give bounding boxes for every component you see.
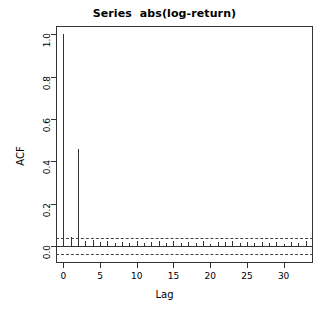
confidence-band-lower <box>56 254 313 255</box>
acf-spike <box>269 243 270 246</box>
x-axis-tick-label: 5 <box>80 271 120 281</box>
x-axis-tick-label: 15 <box>153 271 193 281</box>
acf-spike <box>254 243 255 246</box>
acf-spike <box>284 244 285 247</box>
acf-spike <box>63 34 64 246</box>
acf-spike <box>218 242 219 246</box>
acf-spike <box>262 242 263 246</box>
x-axis-tick-label: 0 <box>43 271 83 281</box>
y-axis-tick-label: 1.0 <box>42 33 52 47</box>
acf-spike <box>247 242 248 246</box>
x-axis-tick-label: 25 <box>227 271 267 281</box>
acf-spike <box>159 241 160 246</box>
y-axis-tick-label: 0.8 <box>42 76 52 90</box>
x-axis-title: Lag <box>0 289 329 300</box>
x-axis-tick-label: 10 <box>117 271 157 281</box>
y-axis-tick-label: 0.0 <box>42 245 52 259</box>
plot-area <box>56 26 313 263</box>
zero-line <box>56 246 313 247</box>
x-axis-tick <box>284 263 285 268</box>
acf-spike <box>115 243 116 246</box>
y-axis-tick-label: 0.2 <box>42 203 52 217</box>
acf-spike <box>122 242 123 246</box>
page-title: Series abs(log-return) <box>0 7 329 20</box>
acf-spike <box>151 242 152 246</box>
x-axis-tick <box>247 263 248 268</box>
x-axis-tick <box>63 263 64 268</box>
acf-spike <box>93 240 94 246</box>
x-axis-tick <box>137 263 138 268</box>
acf-spike <box>225 242 226 246</box>
acf-spike <box>276 242 277 246</box>
x-axis-tick-label: 20 <box>190 271 230 281</box>
acf-spike <box>306 241 307 246</box>
y-axis-tick-label: 0.6 <box>42 118 52 132</box>
y-axis-title: ACF <box>15 146 26 165</box>
acf-spike <box>137 241 138 246</box>
acf-spike <box>144 243 145 246</box>
acf-spike <box>240 243 241 246</box>
x-axis-tick <box>210 263 211 268</box>
acf-spike <box>291 242 292 246</box>
acf-spike <box>188 242 189 246</box>
x-axis-tick-label: 30 <box>264 271 304 281</box>
acf-spike <box>78 149 79 246</box>
acf-spike <box>71 237 72 246</box>
confidence-band-upper <box>56 238 313 239</box>
acf-spike <box>203 241 204 246</box>
x-axis-tick <box>100 263 101 268</box>
acf-spike <box>85 241 86 246</box>
y-axis-tick-label: 0.4 <box>42 160 52 174</box>
acf-spike <box>107 241 108 246</box>
acf-spike <box>129 243 130 246</box>
acf-spike <box>298 243 299 246</box>
acf-spike <box>210 244 211 247</box>
acf-spike <box>181 243 182 246</box>
acf-spike <box>166 243 167 246</box>
x-axis-tick <box>173 263 174 268</box>
acf-spike <box>173 241 174 247</box>
acf-spike <box>232 241 233 246</box>
acf-spike <box>100 242 101 246</box>
acf-plot: Series abs(log-return) 0.00.20.40.60.81.… <box>0 0 329 311</box>
acf-spike <box>196 243 197 246</box>
